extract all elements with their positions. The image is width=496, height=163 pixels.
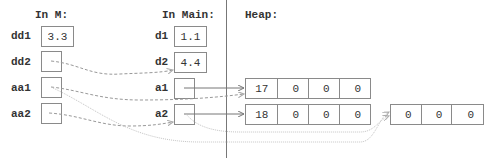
reference-arrows bbox=[0, 0, 496, 163]
arrow-dd2-d2 bbox=[51, 61, 173, 74]
arrow-aa1-heap1 bbox=[51, 87, 244, 100]
arrow-a2-heap3 bbox=[186, 114, 389, 132]
